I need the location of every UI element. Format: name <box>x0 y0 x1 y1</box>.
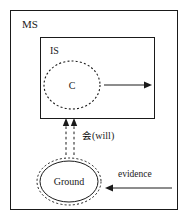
inner-box-label: IS <box>50 45 59 56</box>
diagram-canvas: MS IS C 会(will) Ground evidence <box>0 0 189 223</box>
will-arrow-label-latin: (will) <box>92 130 114 142</box>
inner-right-arrow-head <box>144 82 152 89</box>
will-arrow-head-left <box>63 118 69 126</box>
diagram-root: MS IS C 会(will) Ground evidence <box>0 0 189 223</box>
will-arrow-label: 会(will) <box>82 130 114 142</box>
will-arrow-head-right <box>71 118 77 126</box>
ground-node-label: Ground <box>54 176 85 187</box>
evidence-arrow-head <box>105 185 113 192</box>
concept-node-label: C <box>69 80 76 91</box>
evidence-arrow-label: evidence <box>118 169 152 179</box>
outer-box-label: MS <box>22 18 38 30</box>
will-arrow-label-cjk: 会 <box>82 130 92 141</box>
